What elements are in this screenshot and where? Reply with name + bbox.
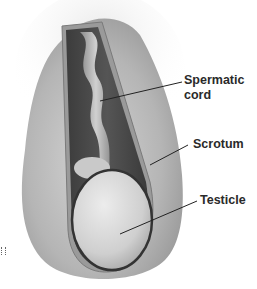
label-spermatic-cord-line1: Spermatic (184, 73, 244, 88)
label-scrotum: Scrotum (193, 137, 244, 152)
label-testicle: Testicle (200, 193, 246, 208)
label-spermatic-cord-line2: cord (184, 88, 244, 103)
testicle-structure (72, 170, 152, 270)
edge-artifact (1, 247, 6, 255)
label-spermatic-cord: Spermatic cord (184, 73, 244, 103)
